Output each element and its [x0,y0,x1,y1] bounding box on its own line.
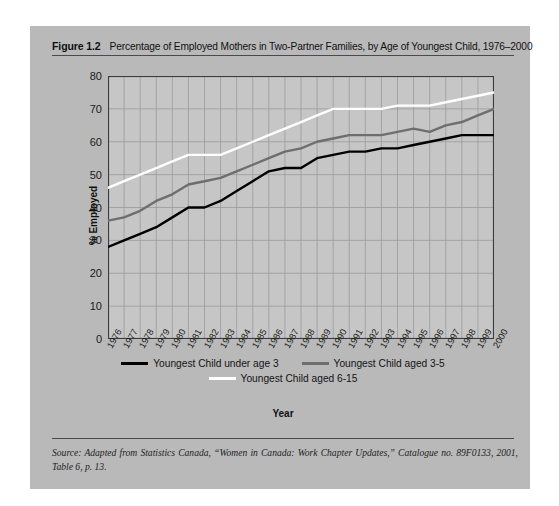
figure-number: Figure 1.2 [52,40,101,52]
legend-row-primary: Youngest Child under age 3Youngest Child… [52,356,514,371]
y-axis-tick-label: 10 [90,300,102,312]
legend-line-swatch [209,377,236,380]
legend-line-swatch [121,362,148,365]
figure-page: Figure 1.2Percentage of Employed Mothers… [0,0,559,506]
figure-caption: Percentage of Employed Mothers in Two-Pa… [110,41,533,52]
legend-label: Youngest Child aged 6-15 [241,373,358,384]
figure-container: Figure 1.2Percentage of Employed Mothers… [30,26,530,489]
legend-line-swatch [302,362,329,365]
source-note: Source: Adapted from Statistics Canada, … [52,446,518,474]
chart-legend: Youngest Child under age 3Youngest Child… [52,356,514,386]
y-axis-tick-label: 80 [90,70,102,82]
figure-header: Figure 1.2Percentage of Employed Mothers… [52,36,514,54]
legend-row-secondary: Youngest Child aged 6-15 [52,371,514,386]
y-axis-tick-label: 0 [96,333,102,345]
line-chart-svg [108,76,494,339]
y-axis-tick-label: 70 [90,103,102,115]
y-axis-tick-label: 30 [90,234,102,246]
plot-area: 0102030405060708019761977197819791980198… [108,76,494,339]
y-axis-tick-label: 50 [90,169,102,181]
y-axis-title: % Employed [88,171,99,261]
legend-label: Youngest Child aged 3-5 [334,358,445,369]
header-divider [52,55,514,56]
legend-item: Youngest Child aged 6-15 [209,373,358,384]
y-axis-tick-label: 40 [90,202,102,214]
x-axis-title: Year [52,408,514,419]
legend-label: Youngest Child under age 3 [153,358,278,369]
legend-item: Youngest Child aged 3-5 [302,358,445,369]
y-axis-tick-label: 20 [90,267,102,279]
legend-item: Youngest Child under age 3 [121,358,278,369]
y-axis-tick-label: 60 [90,136,102,148]
chart: % Employed Year 010203040506070801976197… [52,60,514,436]
footer-divider [52,438,514,439]
